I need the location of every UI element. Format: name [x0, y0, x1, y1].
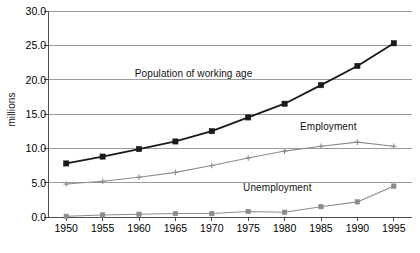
series-label: Employment [300, 121, 357, 132]
series-label: Unemployment [243, 182, 311, 193]
x-axis-tick-label: 1995 [372, 222, 416, 234]
x-axis-tick-labels: 1950195519601965197019751980198519901995 [0, 0, 420, 253]
series-label: Population of working age [135, 67, 253, 78]
chart-container: millions 0.05.010.015.020.025.030.0 1950… [0, 0, 420, 253]
